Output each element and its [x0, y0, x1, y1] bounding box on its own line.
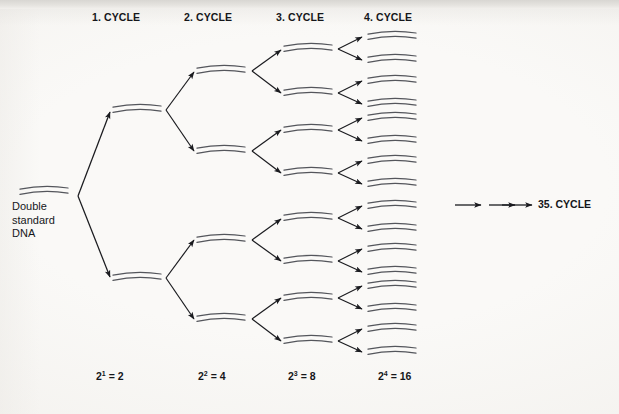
branch-arrow-source-to-c1-a: [78, 112, 110, 196]
dna-molecule-c2-2: [197, 145, 245, 153]
branch-arrow-c2-3-to-c3-5: [252, 219, 281, 240]
dna-molecule-c4-8: [368, 178, 416, 186]
branch-arrow-c3-7-to-c4-14: [338, 298, 362, 309]
dna-molecule-c3-4: [284, 167, 332, 175]
branch-arrow-c3-3-to-c4-6: [338, 130, 362, 141]
dna-molecule-c4-3: [368, 75, 416, 83]
dna-molecule-c2-1: [197, 65, 245, 73]
dna-molecule-c4-6: [368, 135, 416, 143]
dna-molecule-c4-15: [368, 323, 416, 331]
branch-arrow-c2-1-to-c3-2: [252, 71, 281, 93]
branch-arrow-c2-2-to-c3-4: [252, 151, 281, 173]
branch-arrow-c3-5-to-c4-9: [338, 206, 362, 218]
branch-arrow-c3-8-to-c4-16: [338, 341, 362, 352]
dna-molecule-c3-6: [284, 255, 332, 263]
branch-arrow-c3-1-to-c4-2: [338, 49, 362, 60]
dna-molecule-c4-2: [368, 54, 416, 62]
dna-molecule-c4-12: [368, 266, 416, 274]
branch-arrow-c3-2-to-c4-4: [338, 93, 362, 104]
dna-molecule-c4-16: [368, 346, 416, 354]
dna-molecule-c3-8: [284, 335, 332, 343]
figure-canvas: 1. CYCLE 2. CYCLE 3. CYCLE 4. CYCLE Doub…: [0, 0, 619, 414]
dna-molecule-c4-13: [368, 280, 416, 288]
dna-molecule-c3-5: [284, 212, 332, 220]
dna-molecule-c2-4: [197, 313, 245, 321]
branch-arrow-c2-2-to-c3-3: [252, 130, 281, 151]
branch-arrow-c3-7-to-c4-13: [338, 286, 362, 298]
branch-arrow-c3-3-to-c4-5: [338, 118, 362, 130]
dna-molecule-c1-2: [113, 272, 161, 280]
branch-arrow-c3-2-to-c4-3: [338, 81, 362, 93]
dna-molecule-c3-1: [284, 43, 332, 51]
diagram-vector-layer: [0, 0, 619, 414]
dna-molecule-c3-3: [284, 124, 332, 132]
branch-arrow-c3-6-to-c4-11: [338, 249, 362, 261]
dna-molecule-c4-7: [368, 155, 416, 163]
branch-arrow-c3-4-to-c4-7: [338, 161, 362, 173]
branch-arrow-c2-4-to-c3-7: [252, 298, 281, 319]
dna-molecule-c3-7: [284, 292, 332, 300]
branch-arrow-c1-1-to-c2-2: [166, 110, 194, 151]
branch-arrow-c3-4-to-c4-8: [338, 173, 362, 184]
dna-molecule-c4-9: [368, 200, 416, 208]
dna-molecule-c2-3: [197, 234, 245, 242]
branch-arrow-c1-2-to-c2-3: [166, 240, 194, 278]
dna-molecule-c4-1: [368, 31, 416, 39]
dna-molecule-c1-1: [113, 104, 161, 112]
branch-arrow-c2-4-to-c3-8: [252, 319, 281, 341]
dna-molecule-c4-14: [368, 303, 416, 311]
dna-molecule-c4-5: [368, 112, 416, 120]
dna-molecule-c4-11: [368, 243, 416, 251]
dna-molecule-c4-4: [368, 98, 416, 106]
dna-molecule-c4-10: [368, 223, 416, 231]
dna-molecule-c3-2: [284, 87, 332, 95]
branch-arrow-c3-8-to-c4-15: [338, 329, 362, 341]
branch-arrow-c1-2-to-c2-4: [166, 278, 194, 319]
branch-arrow-c3-5-to-c4-10: [338, 218, 362, 229]
branch-arrow-c3-6-to-c4-12: [338, 261, 362, 272]
branch-arrow-c1-1-to-c2-1: [166, 72, 194, 110]
dna-molecule-source: [20, 186, 68, 194]
branch-arrow-c2-3-to-c3-6: [252, 240, 281, 261]
branch-arrow-c3-1-to-c4-1: [338, 37, 362, 49]
branch-arrow-c2-1-to-c3-1: [252, 50, 281, 71]
branch-arrow-source-to-c1-b: [78, 196, 110, 277]
